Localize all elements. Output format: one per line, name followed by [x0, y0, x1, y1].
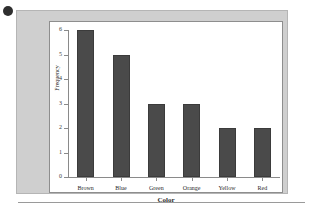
x-tick-label: Green	[136, 184, 176, 192]
bottom-divider	[18, 202, 305, 203]
y-tick-label: 2	[59, 123, 62, 131]
x-axis-line	[68, 177, 280, 178]
y-tick: 3	[64, 104, 69, 105]
y-tick-label: 6	[59, 25, 62, 33]
figure-panel: 0123456 BrownBlueGreenOrangeYellowRed Fr…	[16, 10, 288, 194]
x-tick-mark	[262, 177, 263, 181]
plot-frame: 0123456 BrownBlueGreenOrangeYellowRed Fr…	[49, 21, 283, 193]
y-tick: 2	[64, 128, 69, 129]
y-axis-title: Frequency	[53, 65, 61, 90]
x-tick-mark	[156, 177, 157, 181]
x-tick-mark	[86, 177, 87, 181]
x-tick-label: Blue	[101, 184, 141, 192]
y-tick: 6	[64, 30, 69, 31]
x-tick-mark	[227, 177, 228, 181]
y-tick: 4	[64, 79, 69, 80]
y-tick-mark	[64, 79, 69, 80]
x-tick-label: Yellow	[207, 184, 247, 192]
bar	[183, 104, 200, 178]
y-tick-mark	[64, 128, 69, 129]
y-tick-label: 0	[59, 172, 62, 180]
x-tick-label: Orange	[172, 184, 212, 192]
bar	[219, 128, 236, 177]
bar	[113, 55, 130, 178]
bar	[254, 128, 271, 177]
y-tick-label: 1	[59, 148, 62, 156]
y-tick-mark	[64, 153, 69, 154]
plot-area: 0123456 BrownBlueGreenOrangeYellowRed Fr…	[50, 22, 282, 192]
y-tick: 5	[64, 55, 69, 56]
x-tick-label: Brown	[66, 184, 106, 192]
y-tick-label: 3	[59, 99, 62, 107]
x-axis-title: Color	[50, 196, 282, 205]
y-tick-mark	[64, 177, 69, 178]
y-tick: 0	[64, 177, 69, 178]
x-tick-label: Red	[242, 184, 282, 192]
y-tick-label: 5	[59, 50, 62, 58]
y-tick-mark	[64, 55, 69, 56]
y-tick-mark	[64, 104, 69, 105]
y-tick-mark	[64, 30, 69, 31]
bullet-dot-icon	[3, 6, 13, 16]
x-tick-mark	[121, 177, 122, 181]
bar	[148, 104, 165, 178]
x-tick-mark	[192, 177, 193, 181]
y-tick: 1	[64, 153, 69, 154]
bar	[77, 30, 94, 177]
